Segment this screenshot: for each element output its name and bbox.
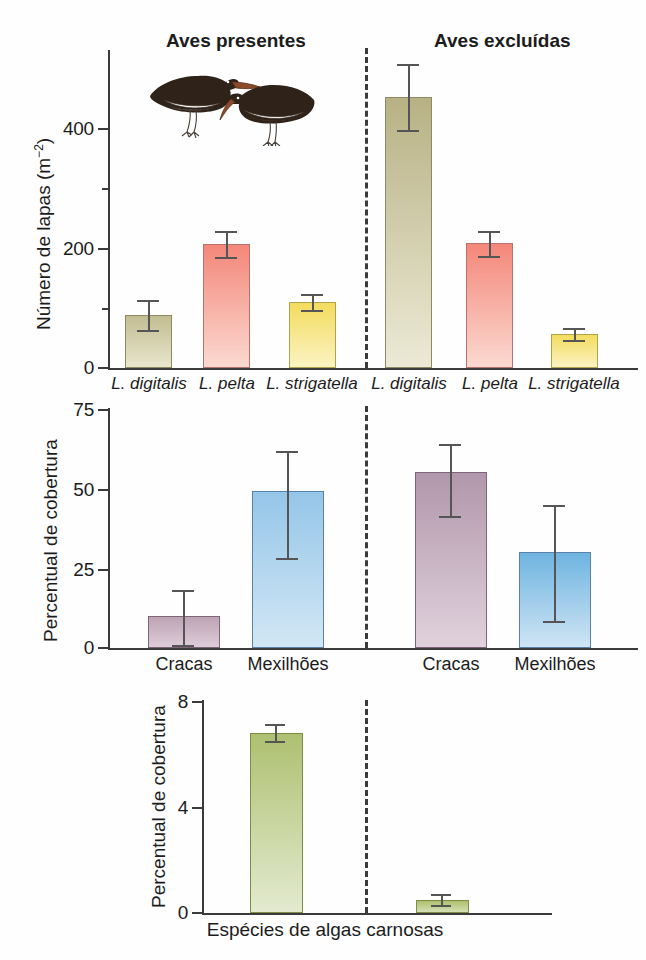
panel2-errcap-top-left-cracas <box>172 590 194 592</box>
panel1-err-right-lstrigatella <box>574 328 576 340</box>
panel1-xlabel-right-ldigitalis: L. digitalis <box>364 374 454 394</box>
group-title-birds-excluded: Aves excluídas <box>434 30 571 52</box>
panel1-errcap-top-right-ldigitalis <box>397 64 419 66</box>
panel1-x-axis <box>108 368 638 370</box>
panel2-err-right-mexilhoes <box>554 505 556 622</box>
panel2-xlabel-left-cracas: Cracas <box>139 654 229 675</box>
panel3-errcap-top-left-algae <box>265 724 285 726</box>
panel2-err-left-mexilhoes <box>287 451 289 559</box>
panel1-treatment-divider <box>365 48 368 368</box>
panel3-errcap-top-right-algae <box>431 894 451 896</box>
panel2-errcap-bottom-left-mexilhoes <box>276 558 298 560</box>
panel2-xlabel-right-cracas: Cracas <box>406 654 496 675</box>
panel3-treatment-divider <box>365 700 368 913</box>
panel1-errcap-top-right-lstrigatella <box>563 328 585 330</box>
panel1-xlabel-left-lstrigatella: L. strigatella <box>262 374 362 394</box>
panel1-bar-right-lpelta <box>466 243 513 368</box>
panel2-errcap-top-left-mexilhoes <box>276 451 298 453</box>
panel1-bar-left-lpelta <box>203 244 250 368</box>
panel1-errcap-bottom-right-lstrigatella <box>563 340 585 342</box>
panel1-errcap-bottom-left-lpelta <box>215 257 237 259</box>
panel1-errcap-top-left-lstrigatella <box>301 294 323 296</box>
panel1-y-axis-title-exponent: −2 <box>32 144 46 158</box>
panel3-err-left-algae <box>275 724 277 742</box>
panel2-errcap-top-right-cracas <box>439 444 461 446</box>
panel1-errcap-top-left-ldigitalis <box>137 300 159 302</box>
oystercatcher-birds-icon <box>144 56 324 146</box>
panel3-tick-8 <box>192 701 203 703</box>
panel1-y-axis <box>108 50 110 370</box>
panel1-xlabel-right-lpelta: L. pelta <box>449 374 531 394</box>
panel1-err-left-lpelta <box>226 231 228 257</box>
panel2-err-right-cracas <box>450 444 452 517</box>
panel3-errcap-bottom-left-algae <box>265 741 285 743</box>
panel1-err-left-lstrigatella <box>312 294 314 310</box>
panel1-tick-200 <box>98 248 109 250</box>
panel2-xlabel-right-mexilhoes: Mexilhões <box>500 654 610 675</box>
panel1-errcap-bottom-left-lstrigatella <box>301 310 323 312</box>
panel1-err-right-ldigitalis <box>408 64 410 130</box>
panel2-treatment-divider <box>365 406 368 648</box>
panel3-errcap-bottom-right-algae <box>431 905 451 907</box>
panel1-y-axis-title-paren: ) <box>33 138 54 144</box>
panel3-tick-4 <box>192 807 203 809</box>
panel1-bar-left-lstrigatella <box>289 302 336 368</box>
panel2-tick-50 <box>98 489 109 491</box>
panel1-ticklabel-400: 400 <box>44 118 94 140</box>
panel1-y-axis-title: Número de lapas (m−2) <box>32 138 55 330</box>
panel1-errcap-bottom-left-ldigitalis <box>137 330 159 332</box>
panel3-tick-0 <box>192 912 203 914</box>
panel1-errcap-bottom-right-lpelta <box>478 256 500 258</box>
group-title-birds-present: Aves presentes <box>166 30 306 52</box>
figure-root: Aves presentes Aves excluídas <box>0 0 646 960</box>
panel2-tick-25 <box>98 569 109 571</box>
panel1-xlabel-left-ldigitalis: L. digitalis <box>104 374 194 394</box>
panel2-y-axis-title: Percentual de cobertura <box>40 439 62 642</box>
panel2-x-axis <box>108 648 638 650</box>
panel1-bar-right-ldigitalis <box>385 97 432 368</box>
panel1-err-left-ldigitalis <box>148 300 150 330</box>
panel2-errcap-bottom-left-cracas <box>172 645 194 647</box>
panel1-tick-300 <box>102 188 109 190</box>
panel2-tick-0 <box>98 647 109 649</box>
panel2-err-left-cracas <box>183 590 185 646</box>
panel1-y-axis-title-text: Número de lapas (m <box>33 158 54 330</box>
panel1-errcap-bottom-right-ldigitalis <box>397 130 419 132</box>
panel2-errcap-top-right-mexilhoes <box>543 505 565 507</box>
panel1-tick-400 <box>98 128 109 130</box>
panel2-ticklabel-75: 75 <box>52 399 94 421</box>
panel1-tick-100 <box>102 308 109 310</box>
panel3-bar-left-algae <box>250 733 303 913</box>
panel2-tick-75 <box>98 409 109 411</box>
panel2-errcap-bottom-right-cracas <box>439 516 461 518</box>
panel1-errcap-top-right-lpelta <box>478 231 500 233</box>
panel1-xlabel-right-lstrigatella: L. strigatella <box>524 374 624 394</box>
panel1-errcap-top-left-lpelta <box>215 231 237 233</box>
panel1-xlabel-left-lpelta: L. pelta <box>186 374 268 394</box>
panel2-y-axis <box>108 408 110 650</box>
panel1-tick-0 <box>98 367 109 369</box>
panel3-x-axis <box>202 913 552 915</box>
panel2-errcap-bottom-right-mexilhoes <box>543 621 565 623</box>
panel2-xlabel-left-mexilhoes: Mexilhões <box>233 654 343 675</box>
panel1-err-right-lpelta <box>489 231 491 256</box>
panel1-ticklabel-0: 0 <box>44 357 94 379</box>
panel3-y-axis-title: Percentual de cobertura <box>148 705 170 908</box>
panel3-x-axis-title: Espécies de algas carnosas <box>175 919 475 941</box>
